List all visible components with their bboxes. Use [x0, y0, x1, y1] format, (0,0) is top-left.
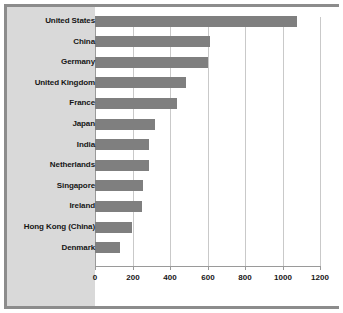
bar-germany	[95, 57, 208, 68]
chart-frame: 020040060080010001200 United StatesChina…	[4, 4, 339, 309]
gridline-400	[170, 17, 171, 266]
gridline-1000	[283, 17, 284, 266]
bar-india	[95, 139, 149, 150]
category-label-united-states: United States	[9, 16, 95, 26]
bar-chart-figure: 020040060080010001200 United StatesChina…	[0, 0, 343, 313]
category-label-japan: Japan	[9, 119, 95, 129]
bar-france	[95, 98, 177, 109]
category-label-france: France	[9, 98, 95, 108]
x-tick-400	[170, 266, 171, 270]
category-label-china: China	[9, 37, 95, 47]
chart-stage: 020040060080010001200 United StatesChina…	[7, 7, 336, 306]
gridline-800	[245, 17, 246, 266]
bar-singapore	[95, 180, 143, 191]
bar-hong-kong-china	[95, 222, 132, 233]
x-tick-1200	[320, 266, 321, 270]
category-label-ireland: Ireland	[9, 201, 95, 211]
x-tick-label-0: 0	[93, 273, 97, 282]
bar-united-states	[95, 16, 297, 27]
x-tick-600	[208, 266, 209, 270]
bar-denmark	[95, 242, 120, 253]
bar-united-kingdom	[95, 77, 186, 88]
category-label-united-kingdom: United Kingdom	[9, 78, 95, 88]
bar-japan	[95, 119, 155, 130]
x-tick-label-800: 800	[238, 273, 251, 282]
category-label-netherlands: Netherlands	[9, 160, 95, 170]
category-label-hong-kong-china: Hong Kong (China)	[9, 222, 95, 232]
x-tick-label-600: 600	[201, 273, 214, 282]
x-tick-200	[133, 266, 134, 270]
x-tick-label-200: 200	[126, 273, 139, 282]
plot-area: 020040060080010001200	[95, 7, 339, 306]
x-tick-label-400: 400	[163, 273, 176, 282]
x-tick-800	[245, 266, 246, 270]
category-label-singapore: Singapore	[9, 181, 95, 191]
x-tick-label-1200: 1200	[311, 273, 329, 282]
x-tick-1000	[283, 266, 284, 270]
x-tick-0	[95, 266, 96, 270]
gridline-600	[208, 17, 209, 266]
bar-netherlands	[95, 160, 149, 171]
bar-china	[95, 36, 210, 47]
gridline-1200	[320, 17, 321, 266]
x-tick-label-1000: 1000	[274, 273, 292, 282]
category-label-germany: Germany	[9, 57, 95, 67]
bar-ireland	[95, 201, 142, 212]
category-label-panel	[7, 7, 95, 306]
category-label-india: India	[9, 140, 95, 150]
category-label-denmark: Denmark	[9, 243, 95, 253]
